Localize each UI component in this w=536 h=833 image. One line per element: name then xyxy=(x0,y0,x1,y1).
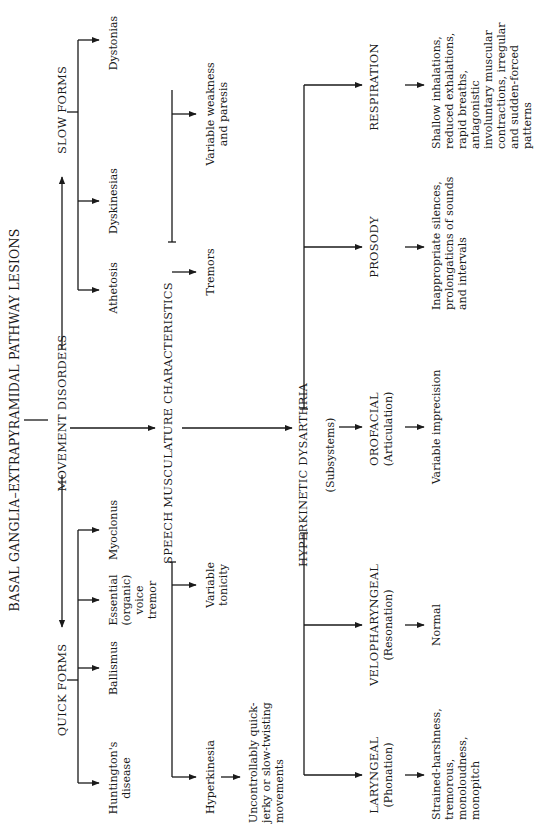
speech-musculature-node: SPEECH MUSCULATURE CHARACTERISTICS xyxy=(161,282,175,564)
essential-line-4: tremor xyxy=(146,580,159,619)
athetosis-label: Athetosis xyxy=(107,262,120,315)
variable-weakness-line-2: and paresis xyxy=(217,81,230,146)
diagram-rotated: BASAL GANGLIA–EXTRAPYRAMIDAL PATHWAY LES… xyxy=(7,15,534,825)
hyperkinesia-detail-line-2: jerky or slow-twisting xyxy=(260,702,273,825)
respiration-detail-line: and sudden-forced xyxy=(508,45,521,149)
flowchart: BASAL GANGLIA–EXTRAPYRAMIDAL PATHWAY LES… xyxy=(0,0,536,833)
diagram-title: BASAL GANGLIA–EXTRAPYRAMIDAL PATHWAY LES… xyxy=(7,229,22,612)
respiration-detail-line: patterns xyxy=(521,102,534,149)
quick-forms-node: QUICK FORMS xyxy=(55,644,69,737)
tremors-label: Tremors xyxy=(204,248,217,295)
hyperkinesia-detail: Uncontrollably quick- jerky or slow-twis… xyxy=(247,702,286,825)
prosody-detail-line: and intervals xyxy=(456,237,469,310)
subsystems-label: (Subsystems) xyxy=(324,418,337,493)
laryngeal-detail-line: monopitch xyxy=(469,761,482,820)
laryngeal-detail-line: monoloudness, xyxy=(456,737,469,820)
speech-item: Variable tonicity xyxy=(204,562,230,609)
velopharyngeal-sub: (Resonation) xyxy=(382,590,395,661)
variable-tonicity-line-2: tonicity xyxy=(217,563,230,606)
movement-disorders-node: MOVEMENT DISORDERS xyxy=(55,335,69,492)
subsystem-velopharyngeal: VELOPHARYNGEAL (Resonation) xyxy=(367,564,395,687)
orofacial-label: OROFACIAL xyxy=(367,392,381,466)
essential-line-3: voice xyxy=(133,585,146,615)
huntingtons-line-2: disease xyxy=(120,757,133,798)
subsystem-orofacial: OROFACIAL (Articulation) xyxy=(367,392,395,467)
dystonias-label: Dystonias xyxy=(107,15,120,70)
quick-form-item: Essential (organic) voice tremor xyxy=(107,574,159,625)
prosody-label: PROSODY xyxy=(367,216,381,278)
laryngeal-detail-line: Strained-harshness, xyxy=(430,708,443,820)
laryngeal-detail: Strained-harshness, tremorous, monoloudn… xyxy=(430,708,482,820)
ballismus-label: Ballismus xyxy=(107,641,120,695)
hyperkinesia-detail-line-3: movements xyxy=(273,759,286,823)
dyskinesias-label: Dyskinesias xyxy=(107,168,120,234)
hyperkinetic-dysarthria-node: HYPERKINETIC DYSARTHRIA xyxy=(296,383,310,567)
subsystem-laryngeal: LARYNGEAL (Phonation) xyxy=(367,736,395,813)
orofacial-detail: Variable imprecision xyxy=(430,370,443,486)
respiration-detail-line: contractions, irregular xyxy=(495,22,508,149)
respiration-detail-line: Shallow inhalations, xyxy=(430,36,443,149)
essential-line-1: Essential xyxy=(107,574,120,625)
laryngeal-detail-line: tremorous, xyxy=(443,759,456,820)
respiration-detail-line: involuntary muscular xyxy=(482,29,495,149)
myoclonus-label: Myoclonus xyxy=(107,500,120,561)
slow-forms-node: SLOW FORMS xyxy=(55,66,69,154)
variable-weakness-line-1: Variable weakness xyxy=(204,62,217,167)
laryngeal-sub: (Phonation) xyxy=(382,743,395,808)
speech-item: Variable weakness and paresis xyxy=(204,62,230,167)
orofacial-sub: (Articulation) xyxy=(382,392,395,467)
essential-line-2: (organic) xyxy=(120,575,133,626)
velopharyngeal-label: VELOPHARYNGEAL xyxy=(367,564,381,687)
respiration-detail-line: reduced exhalations, xyxy=(443,33,456,149)
respiration-detail: Shallow inhalations, reduced exhalations… xyxy=(430,22,534,149)
huntingtons-line-1: Huntington's xyxy=(107,741,120,814)
velopharyngeal-detail: Normal xyxy=(430,604,443,646)
quick-form-item: Huntington's disease xyxy=(107,741,133,814)
prosody-detail-line: Inappropriate silences, xyxy=(430,181,443,310)
variable-tonicity-line-1: Variable xyxy=(204,562,217,609)
prosody-detail-line: prolongaticns of sounds xyxy=(443,176,456,310)
respiration-detail-line: antagonistic xyxy=(469,80,482,149)
respiration-label: RESPIRATION xyxy=(367,43,381,130)
hyperkinesia-detail-line-1: Uncontrollably quick- xyxy=(247,702,260,823)
laryngeal-label: LARYNGEAL xyxy=(367,736,381,813)
hyperkinesia-label: Hyperkinesia xyxy=(204,740,217,815)
prosody-detail: Inappropriate silences, prolongaticns of… xyxy=(430,176,469,310)
respiration-detail-line: rapid breaths, xyxy=(456,70,469,149)
